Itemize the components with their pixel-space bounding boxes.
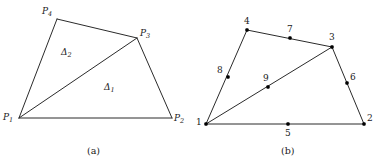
node-marker-7 (288, 36, 291, 39)
node-label-4: 4 (244, 16, 250, 26)
node-label-3: 3 (329, 32, 335, 42)
node-marker-1 (204, 122, 207, 125)
edge-node-2-node-3 (332, 47, 364, 124)
edge-P3-P4 (57, 19, 137, 38)
vertex-label-p4: P4 (42, 6, 52, 17)
vertex-label-p1: P1 (3, 112, 13, 123)
caption-panel-b: (b) (281, 145, 295, 156)
vertex-label-p2: P2 (174, 113, 184, 124)
node-marker-4 (245, 28, 248, 31)
node-label-6: 6 (350, 72, 356, 82)
panel-b-node-markers (204, 28, 365, 125)
figure-canvas (0, 0, 381, 164)
region-label-triangle-delta-1: Δ1 (104, 82, 115, 93)
node-label-7: 7 (287, 24, 293, 34)
node-marker-8 (226, 75, 229, 78)
node-label-5: 5 (285, 128, 291, 138)
edge-P4-P1 (19, 19, 57, 118)
node-marker-3 (330, 45, 333, 48)
region-label-triangle-delta-2: Δ2 (61, 47, 72, 58)
node-label-2: 2 (367, 113, 373, 123)
node-label-9: 9 (263, 73, 269, 83)
node-label-8: 8 (217, 65, 223, 75)
node-marker-9 (266, 85, 269, 88)
edge-P1-P3 (19, 38, 137, 118)
figure-container: P1P2P3P4Δ1Δ2123456789 (a) (b) (0, 0, 381, 164)
node-label-1: 1 (196, 117, 202, 127)
node-marker-2 (362, 122, 365, 125)
edge-P2-P3 (137, 38, 172, 118)
vertex-label-p3: P3 (140, 28, 150, 39)
node-marker-5 (286, 122, 289, 125)
caption-panel-a: (a) (87, 145, 100, 156)
node-marker-6 (345, 81, 348, 84)
